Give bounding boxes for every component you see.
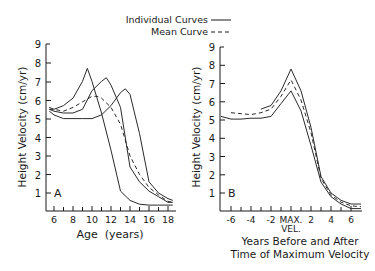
- svg-text:18: 18: [162, 214, 174, 225]
- svg-text:1: 1: [35, 188, 41, 199]
- svg-text:9: 9: [209, 42, 215, 53]
- svg-text:4: 4: [328, 215, 334, 225]
- panel-b-x-axis-label-line1: Years Before and After: [240, 235, 359, 247]
- legend: Individual Curves Mean Curve: [126, 14, 231, 37]
- svg-text:2: 2: [308, 215, 314, 225]
- panel-b-y-axis-label: Height Velocity (cm/yr): [190, 67, 202, 188]
- panel-b-individual-curve-upper: [261, 69, 361, 204]
- panel-b-x-ticks: [231, 206, 351, 211]
- panel-a-y-axis-label: Height Velocity (cm/yr): [16, 67, 28, 188]
- panel-b-x-axis-label-line2: Time of Maximum Velocity: [230, 248, 370, 260]
- svg-text:VEL.: VEL.: [281, 224, 301, 234]
- svg-text:6: 6: [209, 97, 215, 108]
- panel-a-x-axis-label: Age (years): [76, 228, 143, 241]
- figure: Individual Curves Mean Curve: [0, 0, 375, 271]
- svg-text:-4: -4: [247, 215, 256, 225]
- svg-text:1: 1: [209, 188, 215, 199]
- svg-text:8: 8: [70, 214, 76, 225]
- svg-text:5: 5: [35, 114, 41, 125]
- panel-a-y-tick-labels: 1 2 3 4 5 6 7 8 9: [35, 39, 41, 199]
- panel-b-x-tick-labels: -6 -4 -2 MAX. 2 4 6 VEL.: [227, 215, 355, 234]
- panel-b-y-tick-labels: 1 2 3 4 5 6 7 8 9: [209, 42, 215, 199]
- panel-a-individual-curve-early: [49, 68, 173, 205]
- panel-b-mean-curve: [231, 80, 361, 207]
- legend-individual-label: Individual Curves: [126, 14, 208, 25]
- svg-text:3: 3: [209, 152, 215, 163]
- svg-text:14: 14: [124, 214, 136, 225]
- svg-text:3: 3: [35, 151, 41, 162]
- panel-b-letter: B: [228, 187, 236, 200]
- panel-b-curves: [221, 69, 361, 209]
- panel-b-y-ticks: [220, 65, 225, 193]
- svg-text:6: 6: [51, 214, 57, 225]
- legend-mean-label: Mean Curve: [151, 26, 208, 37]
- svg-text:8: 8: [209, 60, 215, 71]
- panel-a-individual-curve-late: [49, 89, 173, 201]
- svg-text:4: 4: [209, 133, 215, 144]
- svg-text:12: 12: [105, 214, 117, 225]
- panel-b: 1 2 3 4 5 6 7 8 9 -6 -4 -2 MAX. 2 4 6 VE…: [190, 42, 369, 260]
- svg-text:6: 6: [35, 96, 41, 107]
- svg-text:2: 2: [209, 170, 215, 181]
- panel-b-individual-curve-lower: [221, 91, 361, 209]
- panel-a: 1 2 3 4 5 6 7 8 9 6 8 10 12 14 16 18 Age…: [16, 39, 176, 241]
- panel-a-curves: [49, 68, 173, 205]
- svg-text:5: 5: [209, 115, 215, 126]
- svg-text:8: 8: [35, 58, 41, 69]
- panel-a-letter: A: [54, 187, 62, 200]
- svg-text:6: 6: [348, 215, 354, 225]
- svg-text:7: 7: [209, 79, 215, 90]
- svg-text:2: 2: [35, 170, 41, 181]
- panel-a-x-tick-labels: 6 8 10 12 14 16 18: [51, 214, 174, 225]
- svg-text:4: 4: [35, 133, 41, 144]
- svg-text:16: 16: [143, 214, 155, 225]
- panel-a-x-ticks: [54, 206, 168, 211]
- panel-a-axes: [46, 44, 176, 211]
- svg-text:-2: -2: [267, 215, 276, 225]
- svg-text:9: 9: [35, 39, 41, 50]
- svg-text:10: 10: [86, 214, 98, 225]
- svg-text:-6: -6: [227, 215, 236, 225]
- panel-a-individual-curve-middle: [49, 78, 173, 203]
- panel-b-axes: [220, 47, 362, 211]
- panel-a-y-ticks: [46, 63, 51, 193]
- svg-text:7: 7: [35, 77, 41, 88]
